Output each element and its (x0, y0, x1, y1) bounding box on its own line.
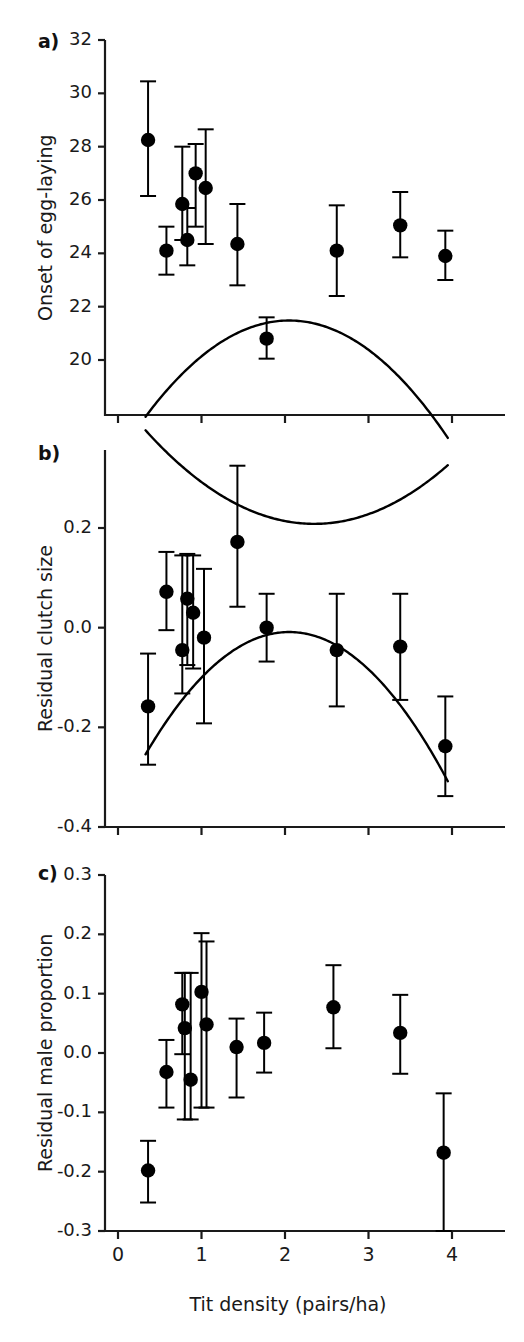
panel-a-y-tick-label: 22 (36, 295, 92, 316)
figure-container: a) b) c) Onset of egg-laying Residual cl… (0, 0, 524, 1342)
panel-c-y-tick-label: 0.2 (36, 922, 92, 943)
panel-c-fit-curve (146, 632, 448, 781)
data-point-marker (141, 699, 155, 713)
panel-c-axis-spine (105, 875, 505, 1231)
data-point-marker (186, 606, 200, 620)
x-tick-label: 3 (349, 1243, 389, 1265)
panel-a-y-tick-label: 26 (36, 188, 92, 209)
panel-c-y-tick-label: 0.1 (36, 982, 92, 1003)
x-tick-label: 4 (432, 1243, 472, 1265)
panel-b-y-tick-label: -0.4 (36, 815, 92, 836)
x-axis-title: Tit density (pairs/ha) (118, 1293, 458, 1315)
data-point-marker (393, 218, 407, 232)
data-point-marker (393, 1026, 407, 1040)
panel-a-y-axis-title: Onset of egg-laying (34, 134, 56, 321)
x-tick-label: 2 (265, 1243, 305, 1265)
panel-a-plot (98, 40, 505, 524)
data-point-marker (178, 1021, 192, 1035)
data-point-marker (199, 1017, 213, 1031)
x-tick-label: 0 (98, 1243, 138, 1265)
panel-b-plot (98, 321, 505, 835)
data-point-marker (230, 237, 244, 251)
data-point-marker (438, 739, 452, 753)
data-point-marker (175, 997, 189, 1011)
data-point-marker (183, 1073, 197, 1087)
data-point-marker (175, 643, 189, 657)
data-point-marker (438, 249, 452, 263)
data-point-marker (330, 243, 344, 257)
panel-c-y-tick-label: 0.0 (36, 1041, 92, 1062)
data-point-marker (141, 133, 155, 147)
data-point-marker (393, 639, 407, 653)
x-tick-label: 1 (182, 1243, 222, 1265)
data-point-marker (436, 1145, 450, 1159)
panel-b-letter: b) (38, 442, 60, 464)
panel-c-y-tick-label: -0.2 (36, 1160, 92, 1181)
data-point-marker (159, 243, 173, 257)
panel-b-y-axis-title: Residual clutch size (34, 545, 56, 732)
data-point-marker (198, 181, 212, 195)
panel-c-y-tick-label: 0.3 (36, 863, 92, 884)
panel-a-y-tick-label: 30 (36, 81, 92, 102)
panel-a-y-tick-label: 24 (36, 241, 92, 262)
data-point-marker (175, 197, 189, 211)
data-point-marker (159, 1065, 173, 1079)
panel-a-y-tick-label: 32 (36, 28, 92, 49)
panel-b-y-tick-label: 0.2 (36, 516, 92, 537)
data-point-marker (188, 166, 202, 180)
data-point-marker (257, 1036, 271, 1050)
panel-b-y-tick-label: 0.0 (36, 616, 92, 637)
data-point-marker (180, 592, 194, 606)
panel-b-y-tick-label: -0.2 (36, 715, 92, 736)
panel-a-y-tick-label: 20 (36, 348, 92, 369)
data-point-marker (326, 1000, 340, 1014)
data-point-marker (259, 331, 273, 345)
panel-c-plot (98, 632, 505, 1239)
panel-a-fit-curve (146, 430, 448, 524)
panel-c-y-tick-label: -0.1 (36, 1100, 92, 1121)
panel-c-y-tick-label: -0.3 (36, 1219, 92, 1240)
data-point-marker (141, 1163, 155, 1177)
data-point-marker (180, 233, 194, 247)
panel-a-y-tick-label: 28 (36, 135, 92, 156)
data-point-marker (230, 535, 244, 549)
data-point-marker (197, 630, 211, 644)
data-point-marker (159, 585, 173, 599)
data-point-marker (194, 985, 208, 999)
panel-b-fit-curve (146, 321, 448, 438)
data-point-marker (229, 1040, 243, 1054)
